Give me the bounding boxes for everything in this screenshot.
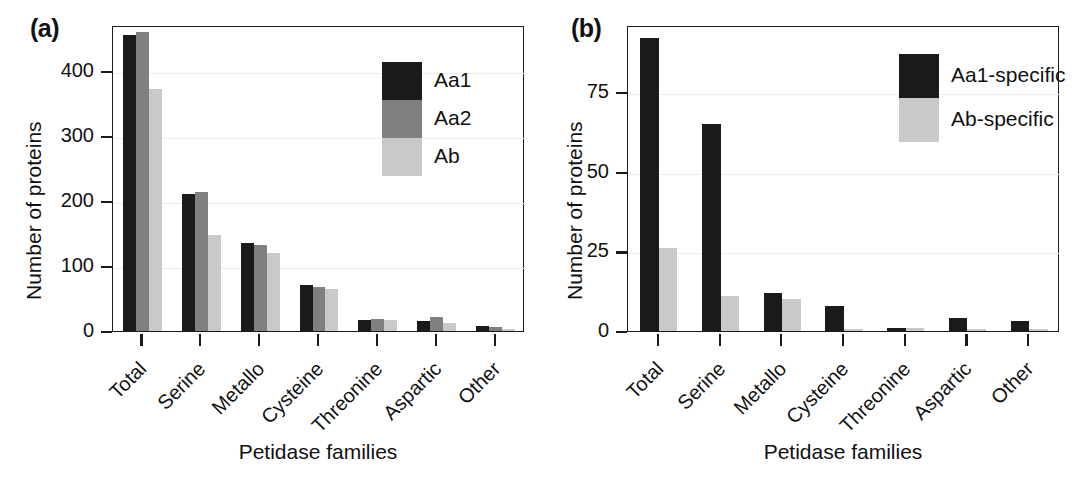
y-tick-mark (616, 92, 627, 94)
panel-b: (b) Number of proteins Aa1-specificAb-sp… (539, 0, 1078, 482)
y-tick-mark (101, 201, 112, 203)
bar-other-ab (502, 329, 515, 331)
gridline (113, 203, 525, 204)
y-tick-mark (616, 172, 627, 174)
y-tick-label: 400 (22, 59, 94, 82)
gridline (113, 138, 525, 139)
bar-serine-aa1 (182, 194, 195, 331)
y-tick-label: 0 (22, 319, 94, 342)
x-tick-mark (199, 334, 201, 346)
x-tick-mark (965, 334, 967, 346)
x-tick-mark (317, 334, 319, 346)
gridline (628, 174, 1060, 175)
bar-other-aa2 (489, 327, 502, 331)
y-tick-label: 25 (537, 239, 609, 262)
bar-total-aa2 (136, 32, 149, 331)
panel-b-y-axis-label: Number of proteins (563, 121, 587, 300)
bar-aspartic-aa1-specific (949, 318, 968, 331)
legend-label-ab: Ab (434, 144, 460, 168)
bar-metallo-aa1 (241, 243, 254, 331)
panel-b-label: (b) (571, 14, 601, 43)
bar-cysteine-aa1 (300, 285, 313, 331)
bar-total-ab (149, 89, 162, 331)
bar-metallo-ab-specific (782, 299, 801, 331)
legend-label-aa2: Aa2 (434, 106, 471, 130)
bar-total-aa1 (123, 35, 136, 331)
bar-aspartic-aa1 (417, 321, 430, 331)
x-tick-mark (258, 334, 260, 346)
bar-aspartic-ab-specific (967, 329, 986, 331)
bar-metallo-ab (267, 253, 280, 331)
y-tick-label: 0 (537, 319, 609, 342)
y-tick-mark (616, 251, 627, 253)
bar-cysteine-ab-specific (844, 329, 863, 331)
y-tick-label: 75 (537, 80, 609, 103)
bar-other-aa1 (476, 326, 489, 331)
bar-cysteine-aa2 (313, 287, 326, 331)
legend-swatch-stack (382, 62, 422, 176)
bar-serine-ab (208, 235, 221, 331)
gridline (628, 253, 1060, 254)
bar-cysteine-aa1-specific (825, 306, 844, 332)
x-tick-mark (1027, 334, 1029, 346)
bar-serine-aa2 (195, 192, 208, 331)
bar-aspartic-ab (443, 323, 456, 331)
bar-metallo-aa2 (254, 245, 267, 331)
gridline (628, 94, 1060, 95)
legend-label-ab-specific: Ab-specific (951, 107, 1054, 131)
x-tick-mark (435, 334, 437, 346)
y-tick-label: 100 (22, 254, 94, 277)
y-tick-mark (101, 331, 112, 333)
panel-a-label: (a) (30, 14, 59, 43)
bar-serine-aa1-specific (702, 124, 721, 331)
legend-swatch-aa1 (382, 62, 422, 100)
panel-a: (a) Number of proteins Aa1Aa2Ab Petidase… (0, 0, 539, 482)
bar-cysteine-ab (325, 289, 338, 331)
x-tick-mark (376, 334, 378, 346)
legend-label-aa1-specific: Aa1-specific (951, 63, 1065, 87)
bar-aspartic-aa2 (430, 317, 443, 331)
y-tick-label: 200 (22, 189, 94, 212)
bar-other-aa1-specific (1011, 321, 1030, 331)
y-tick-mark (101, 266, 112, 268)
bar-threonine-aa1 (358, 320, 371, 331)
x-tick-mark (140, 334, 142, 346)
legend-swatch-aa1-specific (899, 54, 939, 98)
legend-label-aa1: Aa1 (434, 68, 471, 92)
bar-other-ab-specific (1029, 329, 1048, 331)
legend-swatch-aa2 (382, 100, 422, 138)
x-tick-mark (842, 334, 844, 346)
y-tick-label: 300 (22, 124, 94, 147)
y-tick-mark (616, 331, 627, 333)
x-tick-mark (494, 334, 496, 346)
bar-threonine-ab-specific (906, 328, 925, 331)
legend-swatch-stack (899, 54, 939, 142)
bar-threonine-aa1-specific (887, 328, 906, 331)
x-tick-mark (657, 334, 659, 346)
y-tick-mark (101, 136, 112, 138)
legend-swatch-ab-specific (899, 98, 939, 142)
y-tick-label: 50 (537, 160, 609, 183)
legend-swatch-ab (382, 138, 422, 176)
bar-total-aa1-specific (640, 38, 659, 331)
x-tick-mark (719, 334, 721, 346)
bar-threonine-aa2 (371, 319, 384, 331)
bar-serine-ab-specific (721, 296, 740, 331)
figure-two-panel-bar-charts: (a) Number of proteins Aa1Aa2Ab Petidase… (0, 0, 1078, 482)
x-tick-mark (780, 334, 782, 346)
bar-total-ab-specific (659, 248, 678, 331)
x-tick-mark (904, 334, 906, 346)
gridline (113, 268, 525, 269)
bar-threonine-ab (384, 320, 397, 331)
bar-metallo-aa1-specific (764, 293, 783, 331)
y-tick-mark (101, 71, 112, 73)
